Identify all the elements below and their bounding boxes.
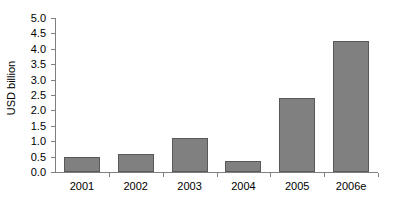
y-axis-tick-label: 5.0 xyxy=(14,13,46,24)
y-axis-tick-mark xyxy=(51,126,55,127)
x-axis-tick-mark xyxy=(163,173,164,177)
bar xyxy=(118,154,154,172)
y-axis-tick-label: 1.0 xyxy=(14,136,46,147)
y-axis-tick-labels: 0.00.51.01.52.02.53.03.54.04.55.0 xyxy=(14,0,46,212)
bar xyxy=(225,161,261,172)
x-axis-tick-label: 2004 xyxy=(213,180,273,193)
bar xyxy=(172,138,208,172)
y-axis-tick-label: 3.5 xyxy=(14,59,46,70)
bar xyxy=(279,98,315,172)
x-axis-tick-label: 2005 xyxy=(267,180,327,193)
y-axis-tick-label: 0.0 xyxy=(14,167,46,178)
y-axis-tick-label: 1.5 xyxy=(14,120,46,131)
x-axis-tick-label: 2003 xyxy=(160,180,220,193)
y-axis-tick-mark xyxy=(51,157,55,158)
y-axis-tick-label: 3.0 xyxy=(14,74,46,85)
x-axis-tick-mark xyxy=(109,173,110,177)
y-axis-tick-mark xyxy=(51,80,55,81)
bar xyxy=(64,157,100,172)
y-axis-tick-mark xyxy=(51,172,55,173)
y-axis-tick-mark xyxy=(51,33,55,34)
plot-area xyxy=(55,18,378,173)
x-axis-tick-label: 2006e xyxy=(321,180,381,193)
y-axis-tick-mark xyxy=(51,110,55,111)
y-axis-tick-mark xyxy=(51,141,55,142)
x-axis-tick-mark xyxy=(378,173,379,177)
y-axis-tick-label: 4.0 xyxy=(14,43,46,54)
y-axis-tick-mark xyxy=(51,18,55,19)
x-axis-tick-label: 2001 xyxy=(52,180,112,193)
x-axis-tick-labels: 200120022003200420052006e xyxy=(55,180,378,196)
x-axis-tick-label: 2002 xyxy=(106,180,166,193)
x-axis-tick-mark xyxy=(270,173,271,177)
bar xyxy=(333,41,369,172)
y-axis-line xyxy=(55,18,56,173)
x-axis-tick-mark xyxy=(217,173,218,177)
y-axis-tick-mark xyxy=(51,64,55,65)
y-axis-tick-label: 4.5 xyxy=(14,28,46,39)
y-axis-tick-label: 2.5 xyxy=(14,90,46,101)
y-axis-tick-label: 0.5 xyxy=(14,151,46,162)
y-axis-tick-label: 2.0 xyxy=(14,105,46,116)
y-axis-tick-mark xyxy=(51,49,55,50)
bar-chart: USD billion 0.00.51.01.52.02.53.03.54.04… xyxy=(0,0,396,212)
x-axis-tick-mark xyxy=(324,173,325,177)
y-axis-tick-mark xyxy=(51,95,55,96)
